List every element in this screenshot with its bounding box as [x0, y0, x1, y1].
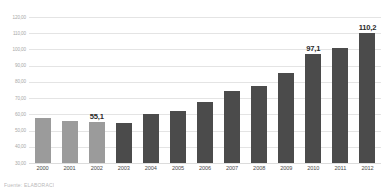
bar-slot [110, 17, 137, 163]
x-axis-tick-label: 2002 [91, 165, 103, 172]
y-axis-tick-label: 100,00 [0, 47, 26, 52]
bar-slot [219, 17, 246, 163]
x-axis-tick-label: 2010 [307, 165, 319, 172]
bars-group: 55,197,1110,2 [29, 17, 381, 163]
chart-footnote: Fuente: ELABORACI [4, 182, 54, 190]
y-axis-tick-label: 70,00 [0, 96, 26, 101]
bar[interactable] [197, 102, 213, 163]
bar[interactable] [170, 111, 186, 163]
bar[interactable] [305, 54, 321, 163]
bar[interactable] [224, 91, 240, 163]
bar-value-label: 97,1 [306, 45, 320, 53]
x-axis-tick-label: 2001 [64, 165, 76, 172]
bar-slot [56, 17, 83, 163]
x-axis-tick-label: 2007 [226, 165, 238, 172]
gridline [29, 163, 381, 164]
bar[interactable] [143, 114, 159, 163]
bar-slot [29, 17, 56, 163]
bar[interactable] [116, 123, 132, 163]
x-axis-tick-label: 2009 [280, 165, 292, 172]
x-axis-tick-label: 2003 [118, 165, 130, 172]
bar-slot [246, 17, 273, 163]
y-axis-tick-label: 40,00 [0, 144, 26, 149]
bar[interactable] [332, 48, 348, 163]
y-axis-tick-label: 50,00 [0, 128, 26, 133]
y-axis-tick-label: 80,00 [0, 79, 26, 84]
bar[interactable] [62, 121, 78, 163]
bar-slot [191, 17, 218, 163]
x-axis-tick-label: 2004 [145, 165, 157, 172]
bar[interactable] [359, 33, 375, 163]
bar[interactable] [89, 122, 105, 163]
y-axis-tick-label: 110,00 [0, 31, 26, 36]
x-axis-tick-label: 2008 [253, 165, 265, 172]
bar[interactable] [251, 86, 267, 163]
bar-slot [327, 17, 354, 163]
bar-chart: 30,0040,0050,0060,0070,0080,0090,00100,0… [0, 0, 387, 190]
bar[interactable] [35, 118, 51, 163]
bar[interactable] [278, 73, 294, 163]
y-axis-tick-label: 30,00 [0, 161, 26, 166]
x-axis-tick-label: 2006 [199, 165, 211, 172]
bar-slot [273, 17, 300, 163]
x-axis-tick-label: 2005 [172, 165, 184, 172]
bar-slot [164, 17, 191, 163]
x-axis-tick-label: 2011 [335, 165, 347, 172]
x-axis-tick-label: 2012 [361, 165, 373, 172]
bar-slot: 55,1 [83, 17, 110, 163]
x-axis-tick-label: 2000 [37, 165, 49, 172]
bar-slot [137, 17, 164, 163]
y-axis-tick-label: 60,00 [0, 112, 26, 117]
bar-slot: 110,2 [354, 17, 381, 163]
bar-slot: 97,1 [300, 17, 327, 163]
y-axis-tick-label: 90,00 [0, 63, 26, 68]
x-axis: 2000200120022003200420052006200720082009… [29, 165, 381, 177]
bar-value-label: 110,2 [359, 24, 377, 32]
bar-value-label: 55,1 [90, 113, 104, 121]
y-axis-tick-label: 120,00 [0, 15, 26, 20]
